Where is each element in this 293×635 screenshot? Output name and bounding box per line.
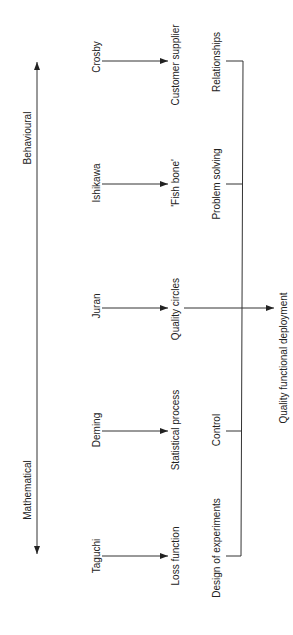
concept-fish-bone: 'Fish bone' <box>171 159 181 207</box>
outcome-quality-functional-deployment: Quality functional deployment <box>279 292 289 423</box>
axis-label-behavioural: Behavioural <box>23 112 33 165</box>
theme-relationships: Relationships <box>212 32 222 92</box>
theme-control: Control <box>212 414 222 446</box>
name-ishikawa: Ishikawa <box>92 164 102 203</box>
name-crosby: Crosby <box>92 41 102 73</box>
diagram-lines <box>0 0 293 635</box>
name-deming: Deming <box>92 413 102 447</box>
row-arrows <box>102 61 168 556</box>
concept-loss-function: Loss function <box>171 527 181 586</box>
concept-quality-circles: Quality circles <box>171 278 181 340</box>
theme-design-of-experiments: Design of experiments <box>212 498 222 598</box>
theme-problem-solving: Problem solving <box>212 148 222 219</box>
axis-label-mathematical: Mathematical <box>23 460 33 519</box>
name-juran: Juran <box>92 293 102 318</box>
name-taguchi: Taguchi <box>92 539 102 573</box>
concept-statistical-process: Statistical process <box>171 390 181 471</box>
concept-customer-supplier: Customer supplier <box>171 24 181 105</box>
